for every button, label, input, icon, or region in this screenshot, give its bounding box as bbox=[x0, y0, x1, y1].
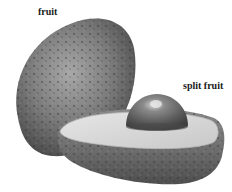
label-fruit: fruit bbox=[38, 6, 57, 17]
avocado-pit bbox=[126, 94, 188, 131]
avocado-illustration: fruit split fruit bbox=[0, 0, 232, 192]
label-split-fruit: split fruit bbox=[183, 80, 223, 91]
avocado-drawing bbox=[0, 0, 232, 192]
